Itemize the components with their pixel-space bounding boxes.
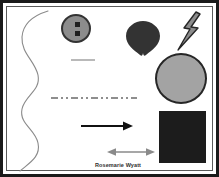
black-arrow-shape[interactable] <box>80 120 134 132</box>
drawing-canvas-frame: Rosemarie Wyatt <box>0 0 219 177</box>
large-circle-shape[interactable] <box>155 53 207 104</box>
dark-square-shape[interactable] <box>159 111 206 163</box>
lightning-bolt-shape[interactable] <box>175 11 201 51</box>
caption-label: Rosemarie Wyatt <box>95 161 165 169</box>
drawing-surface[interactable]: Rosemarie Wyatt <box>7 7 218 176</box>
button-hole-top <box>75 22 80 27</box>
double-arrow-shape[interactable] <box>106 146 156 158</box>
dash-dot-line-shape[interactable] <box>51 97 137 99</box>
wavy-curve-shape[interactable] <box>15 9 55 173</box>
button-hole-bottom <box>75 31 80 36</box>
gray-short-line-shape[interactable] <box>71 59 95 61</box>
heart-shape[interactable] <box>125 19 161 57</box>
button-circle-shape[interactable] <box>61 14 91 43</box>
